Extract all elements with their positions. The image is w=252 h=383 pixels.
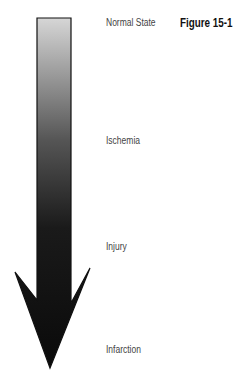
stage-label-normal-state: Normal State: [106, 17, 156, 28]
stage-label-ischemia: Ischemia: [106, 135, 140, 146]
stage-label-infarction: Infarction: [106, 344, 141, 355]
progression-arrow: [0, 0, 252, 383]
figure-label: Figure 15-1: [180, 16, 233, 30]
stage-label-injury: Injury: [106, 241, 127, 252]
